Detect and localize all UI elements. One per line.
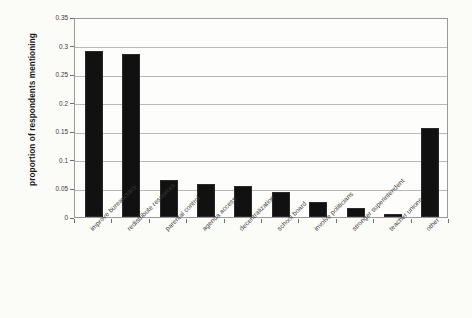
- y-tick-label: 0.15: [56, 128, 68, 135]
- bar: [421, 128, 439, 217]
- y-tick-label: 0.3: [59, 43, 68, 50]
- bar-chart: proportion of respondents mentioning 00.…: [0, 0, 472, 318]
- y-tick-label: 0.1: [59, 157, 68, 164]
- y-tick-label: 0.05: [56, 185, 68, 192]
- bar: [234, 186, 252, 217]
- x-tick-mark: [149, 219, 150, 223]
- y-tick-label: 0.2: [59, 100, 68, 107]
- x-axis-label: other: [425, 216, 441, 232]
- gridline: [75, 47, 447, 48]
- y-tick-label: 0.25: [56, 71, 68, 78]
- bar: [272, 192, 290, 217]
- x-tick-mark: [411, 219, 412, 223]
- bar: [85, 51, 103, 217]
- x-tick-mark: [373, 219, 374, 223]
- y-tick-label: 0.35: [56, 14, 68, 21]
- y-axis-title: proportion of respondents mentioning: [28, 5, 37, 215]
- x-tick-mark: [298, 219, 299, 223]
- x-tick-mark: [261, 219, 262, 223]
- x-tick-mark: [74, 219, 75, 223]
- x-tick-mark: [336, 219, 337, 223]
- y-tick-label: 0: [64, 214, 68, 221]
- x-tick-mark: [111, 219, 112, 223]
- x-tick-mark: [448, 219, 449, 223]
- x-tick-mark: [186, 219, 187, 223]
- x-tick-mark: [224, 219, 225, 223]
